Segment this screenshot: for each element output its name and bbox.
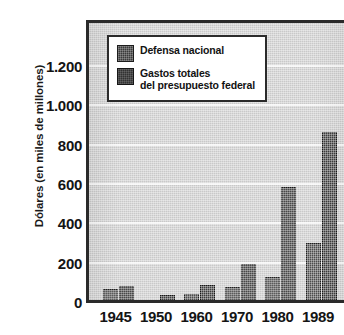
legend-swatch-defensa-nacional (117, 45, 134, 62)
legend-label-line1: Gastos totales (140, 67, 210, 79)
y-tick-label: 1.200 (20, 59, 82, 74)
bar-gastos-totales-1980 (281, 187, 296, 303)
legend-swatch-gastos-totales (117, 68, 134, 85)
x-axis-baseline (89, 300, 344, 303)
legend-item-gastos-totales: Gastos totales del presupuesto federal (117, 67, 257, 92)
x-tick-label: 1950 (134, 308, 178, 325)
y-tick-label: 1.000 (20, 98, 82, 113)
bar-group (265, 20, 296, 303)
bar-chart-figure: Dólares (en miles de millones) 020040060… (0, 0, 344, 335)
y-tick-label: 200 (20, 256, 82, 271)
bar-defensa-nacional-1989 (306, 243, 321, 303)
y-tick-label: 600 (20, 177, 82, 192)
y-tick-label: 400 (20, 216, 82, 231)
legend-item-defensa-nacional: Defensa nacional (117, 44, 257, 62)
x-tick-label: 1980 (256, 308, 300, 325)
plot-area: Defensa nacional Gastos totales del pres… (86, 20, 344, 303)
y-axis-tick-labels: 02004006008001.0001.200 (18, 0, 82, 335)
x-axis-tick-labels: 194519501960197019801989 (86, 306, 344, 332)
legend-label-gastos-totales: Gastos totales del presupuesto federal (140, 67, 255, 92)
y-tick-label: 0 (20, 295, 82, 310)
legend-label-line2: del presupuesto federal (140, 79, 255, 91)
x-tick-label: 1989 (296, 308, 340, 325)
bar-gastos-totales-1989 (322, 132, 337, 303)
legend-label-line1: Defensa nacional (140, 44, 224, 56)
chart-legend: Defensa nacional Gastos totales del pres… (107, 35, 267, 102)
bar-gastos-totales-1970 (241, 264, 256, 303)
x-tick-label: 1945 (94, 308, 138, 325)
legend-label-defensa-nacional: Defensa nacional (140, 44, 224, 56)
x-tick-label: 1960 (175, 308, 219, 325)
bar-group (306, 20, 337, 303)
y-tick-label: 800 (20, 138, 82, 153)
x-tick-label: 1970 (215, 308, 259, 325)
